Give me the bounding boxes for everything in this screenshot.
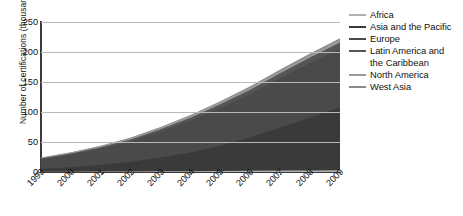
y-tick-label: 50 [4,137,38,147]
legend-item[interactable]: West Asia [349,81,463,93]
gridline [41,22,340,23]
chart-legend: AfricaAsia and the PacificEuropeLatin Am… [349,9,463,93]
x-tick-mark [191,172,192,175]
x-tick-mark [310,172,311,175]
x-tick-mark [71,172,72,175]
y-tick-label: 250 [4,17,38,27]
x-tick-mark [41,172,42,175]
legend-swatch-line-icon [349,26,366,28]
legend-item-label: Europe [370,33,400,45]
legend-swatch-line-icon [349,50,366,52]
stacked-area-chart-figure: Number of certifications (thousands) 050… [0,0,463,216]
legend-swatch-line-icon [349,86,366,88]
gridline [41,142,340,143]
y-tick-label: 100 [4,107,38,117]
plot-area [41,22,340,172]
legend-item-label: Asia and the Pacific [370,21,451,33]
legend-item-label: Latin America and [370,45,444,57]
legend-swatch-line-icon [349,74,366,76]
legend-item-label: West Asia [370,81,411,93]
gridline [41,112,340,113]
legend-item[interactable]: Latin America and [349,45,463,57]
legend-item[interactable]: Europe [349,33,463,45]
x-tick-mark [250,172,251,175]
x-tick-mark [340,172,341,175]
y-tick-label: 150 [4,77,38,87]
legend-item-label: Africa [370,9,394,21]
legend-item[interactable]: North America [349,69,463,81]
x-tick-mark [131,172,132,175]
x-tick-mark [220,172,221,175]
legend-swatch-line-icon [349,38,366,40]
legend-item[interactable]: Africa [349,9,463,21]
y-tick-label: 200 [4,47,38,57]
legend-item-label-continued: the Caribbean [349,57,463,69]
legend-item[interactable]: Asia and the Pacific [349,21,463,33]
stacked-area-series [41,22,340,172]
gridline [41,52,340,53]
gridline [41,82,340,83]
legend-item-label: North America [370,69,429,81]
legend-swatch-line-icon [349,14,366,16]
x-tick-mark [280,172,281,175]
x-tick-mark [101,172,102,175]
x-tick-mark [161,172,162,175]
